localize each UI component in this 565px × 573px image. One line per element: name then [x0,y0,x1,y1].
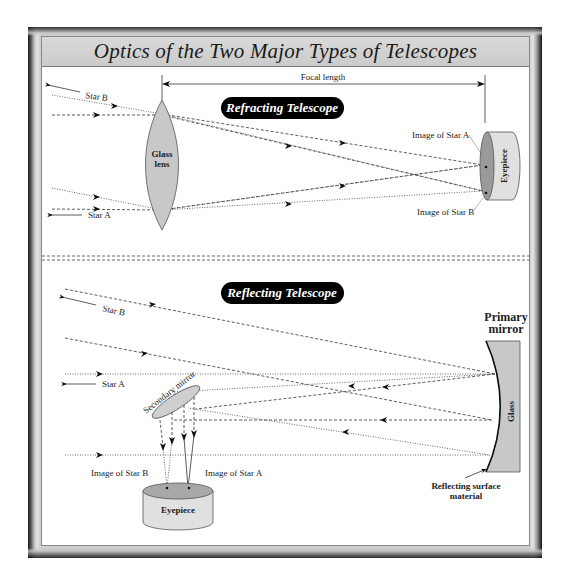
lens-label-line2: lens [154,159,170,169]
refract-image-a-label: Image of Star A [412,130,470,140]
reflecting-heading: Reflecting Telescope [226,285,337,300]
reflect-star-b-label: Star B [102,303,126,318]
ray-arrowheads [93,103,346,212]
reflect-arrowheads [96,302,389,458]
refract-image-b-label: Image of Star B [417,207,474,217]
glass-lens: Glass lens [146,100,179,230]
lens-label-line1: Glass [151,149,173,159]
ray-star-a-bottom [52,165,483,210]
reflecting-surface-label-line2: material [450,491,483,501]
reflect-image-a-label: Image of Star A [205,468,263,478]
refract-eyepiece-label: Eyepiece [499,149,509,183]
ray-star-a-parallel [52,165,483,210]
reflect-image-b-label: Image of Star B [91,468,148,478]
refract-star-a-label: Star A [88,210,111,220]
refracting-section: Focal length Refracting Telescope Star B… [48,72,520,230]
refract-eyepiece: Eyepiece [480,132,520,200]
reflect-star-a-label: Star A [102,379,125,389]
ray-star-b-parallel [52,115,483,191]
primary-mirror: Glass Primary mirror [484,310,527,472]
reflected-ray-4 [188,408,490,455]
reflecting-heading-badge: Reflecting Telescope [221,282,344,304]
refract-star-b-label: Star B [85,90,109,103]
reflect-eyepiece: Eyepiece [143,483,213,530]
star-b-direction-arrow [48,85,80,92]
reflecting-surface-label-line1: Reflecting surface [431,481,500,491]
section-divider [42,256,530,260]
telescope-optics-diagram: Focal length Refracting Telescope Star B… [0,0,565,573]
focal-length-label: Focal length [301,72,346,82]
reflected-ray-1 [196,374,495,409]
reflect-eyepiece-label: Eyepiece [161,505,195,515]
reflected-ray-2 [172,374,495,392]
reflecting-surface-pointer [465,470,484,478]
primary-mirror-label-line2: mirror [488,322,524,336]
incoming-ray-b2 [65,338,492,420]
reflecting-section: Reflecting Telescope Star B Star A [62,282,528,530]
refracting-heading: Refracting Telescope [225,100,338,115]
refracting-heading-badge: Refracting Telescope [221,97,344,119]
glass-label: Glass [506,400,516,422]
reflect-star-b-arrow [62,297,96,305]
